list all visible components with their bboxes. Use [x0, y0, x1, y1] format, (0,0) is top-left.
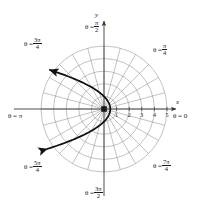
x-tick-label: 1 — [113, 112, 121, 118]
grid-ray — [43, 109, 104, 125]
fraction-numerator: π — [94, 20, 99, 27]
angle-label-text: θ = 0 — [173, 112, 187, 120]
x-tick-label: 4 — [150, 112, 158, 118]
angle-label-text: θ = — [24, 163, 33, 171]
angle-label-text: θ = — [24, 40, 33, 48]
y-axis-label-text: y — [95, 11, 98, 19]
grid-ray — [104, 78, 159, 110]
angle-label-theta-pi: θ = π — [8, 113, 22, 120]
y-axis-label: y — [95, 12, 98, 19]
x-tick-label: 3 — [138, 112, 146, 118]
grid-ray — [43, 93, 104, 109]
angle-label-theta-3pi-2: θ =3π2 — [85, 186, 103, 201]
polar-graph-figure: θ = 0 θ =π4 θ =π2 θ =3π4 θ = π θ =5π4 θ … — [0, 0, 207, 213]
fraction-denominator: 2 — [94, 192, 103, 200]
grid-ray — [73, 109, 105, 164]
fraction: 5π4 — [33, 160, 42, 175]
grid-ray — [104, 64, 149, 109]
angle-label-theta-7pi-4: θ =7π4 — [153, 159, 171, 174]
angle-label-text: θ = — [153, 46, 162, 54]
grid-ray — [49, 109, 104, 141]
grid-ray — [49, 78, 104, 110]
grid-ray — [88, 48, 104, 109]
grid-ray — [104, 93, 165, 109]
angle-label-theta-3pi-4: θ =3π4 — [24, 37, 42, 52]
fraction: 3π2 — [94, 186, 103, 201]
grid-ray — [88, 109, 104, 170]
grid-ray — [104, 54, 136, 109]
fraction-numerator: π — [162, 43, 167, 50]
x-tick-label: 2 — [125, 112, 133, 118]
grid-ray — [59, 64, 104, 109]
fraction: 7π4 — [162, 159, 171, 174]
fraction-denominator: 4 — [162, 49, 167, 57]
angle-label-text: θ = — [153, 162, 162, 170]
x-tick-label: 5 — [163, 112, 171, 118]
fraction-denominator: 4 — [162, 165, 171, 173]
angle-label-theta-pi-4: θ =π4 — [153, 43, 167, 58]
fraction-numerator: 3π — [94, 186, 103, 193]
origin-marker — [101, 106, 107, 112]
fraction: π4 — [162, 43, 167, 58]
x-axis-label-text: x — [176, 98, 179, 106]
fraction: π2 — [94, 20, 99, 35]
fraction: 3π4 — [33, 37, 42, 52]
angle-label-text: θ = — [85, 23, 94, 31]
fraction-denominator: 4 — [33, 166, 42, 174]
fraction-denominator: 4 — [33, 43, 42, 51]
grid-ray — [73, 54, 105, 109]
grid-ray — [59, 109, 104, 154]
polar-plot-canvas — [0, 0, 207, 213]
angle-label-text: θ = π — [8, 112, 22, 120]
fraction-numerator: 7π — [162, 159, 171, 166]
angle-label-theta-pi-2: θ =π2 — [85, 20, 99, 35]
angle-label-theta-0: θ = 0 — [173, 113, 187, 120]
angle-label-theta-5pi-4: θ =5π4 — [24, 160, 42, 175]
fraction-denominator: 2 — [94, 26, 99, 34]
fraction-numerator: 3π — [33, 37, 42, 44]
x-axis-label: x — [176, 99, 179, 106]
fraction-numerator: 5π — [33, 160, 42, 167]
angle-label-text: θ = — [85, 189, 94, 197]
